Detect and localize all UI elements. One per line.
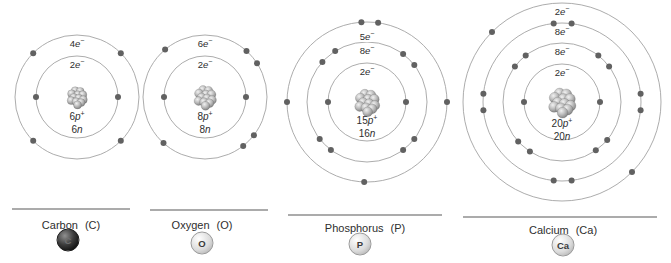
- charge-sign: −: [565, 25, 569, 32]
- element-caption: Phosphorus(P): [325, 222, 405, 234]
- shell-electron-count-label: 8e−: [553, 27, 572, 37]
- shell-electron-count-label: 5e−: [358, 32, 377, 42]
- charge-sign: −: [370, 30, 374, 37]
- neutron-count: 20: [554, 130, 565, 141]
- neutron-count-line: 6n: [69, 123, 84, 136]
- neutron-symbol: n: [565, 130, 571, 141]
- proton-charge: +: [209, 110, 213, 117]
- proton-charge: +: [568, 117, 572, 124]
- shell-electron-count-label: 8e−: [553, 47, 572, 57]
- neutron-symbol: n: [77, 123, 83, 134]
- charge-sign: −: [208, 37, 212, 44]
- neutron-count-line: 16n: [357, 127, 378, 140]
- bohr-models-figure: 2e−4e−6p+6nCarbon(C)C2e−6e−8p+8nOxygen(O…: [0, 0, 671, 263]
- shell-electron-count-label: 2e−: [553, 68, 572, 78]
- charge-sign: −: [80, 58, 84, 65]
- element-badge-text: Ca: [557, 240, 569, 251]
- proton-charge: +: [81, 110, 85, 117]
- shell-electron-count-label: 2e−: [68, 60, 87, 70]
- element-badge: C: [57, 229, 80, 252]
- proton-charge: +: [373, 114, 377, 121]
- charge-sign: −: [565, 66, 569, 73]
- neutron-count: 16: [359, 127, 370, 138]
- nucleus-label: 15p+16n: [357, 115, 378, 140]
- neutron-count-line: 20n: [552, 130, 573, 143]
- charge-sign: −: [370, 65, 374, 72]
- shell-electron-count-label: 2e−: [553, 7, 572, 17]
- shell-electron-count-label: 6e−: [196, 39, 215, 49]
- neutron-count-line: 8n: [197, 123, 212, 136]
- proton-count-line: 15p+: [357, 115, 378, 128]
- nucleus-label: 6p+6n: [69, 111, 84, 136]
- proton-count-line: 8p+: [197, 111, 212, 124]
- element-symbol-paren: (Ca): [576, 224, 597, 236]
- element-badge: Ca: [552, 234, 575, 257]
- neutron-symbol: n: [205, 123, 211, 134]
- nucleus-label: 20p+20n: [552, 118, 573, 143]
- element-badge: P: [349, 233, 372, 256]
- proton-count: 20: [552, 118, 563, 129]
- shell-electron-count-label: 2e−: [358, 67, 377, 77]
- labels-layer: 2e−4e−6p+6nCarbon(C)C2e−6e−8p+8nOxygen(O…: [0, 0, 671, 263]
- element-symbol-paren: (O): [217, 219, 233, 231]
- element-badge-text: P: [357, 239, 363, 250]
- charge-sign: −: [565, 5, 569, 12]
- proton-count: 15: [357, 115, 368, 126]
- shell-electron-count-label: 8e−: [358, 46, 377, 56]
- element-caption: Oxygen(O): [172, 219, 233, 231]
- charge-sign: −: [565, 45, 569, 52]
- shell-electron-count-label: 4e−: [68, 39, 87, 49]
- charge-sign: −: [208, 58, 212, 65]
- element-badge: O: [191, 232, 214, 255]
- charge-sign: −: [80, 37, 84, 44]
- element-symbol-paren: (P): [391, 222, 406, 234]
- element-symbol-paren: (C): [85, 219, 100, 231]
- charge-sign: −: [370, 44, 374, 51]
- neutron-symbol: n: [370, 127, 376, 138]
- proton-count-line: 6p+: [69, 111, 84, 124]
- proton-count-line: 20p+: [552, 118, 573, 131]
- element-badge-text: O: [198, 238, 205, 249]
- nucleus-label: 8p+8n: [197, 111, 212, 136]
- element-name: Phosphorus: [325, 222, 384, 234]
- element-name: Oxygen: [172, 219, 210, 231]
- element-badge-text: C: [65, 235, 72, 246]
- shell-electron-count-label: 2e−: [196, 60, 215, 70]
